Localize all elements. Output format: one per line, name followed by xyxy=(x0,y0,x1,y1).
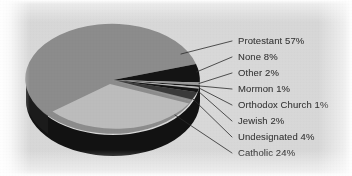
pie-chart-graphic xyxy=(0,0,352,176)
leader-line-catholic xyxy=(175,115,232,153)
leader-line-none xyxy=(197,57,233,72)
leader-line-mormon xyxy=(200,86,233,89)
pie-label-protestant: Protestant 57% xyxy=(238,36,304,46)
pie-label-catholic: Catholic 24% xyxy=(238,148,295,158)
pie-label-orthodox-church: Orthodox Church 1% xyxy=(238,100,329,110)
pie-top-face-group xyxy=(25,24,200,134)
pie-label-undesignated: Undesignated 4% xyxy=(238,132,315,142)
leader-line-other xyxy=(199,73,232,84)
pie-chart-figure: Protestant 57% None 8% Other 2% Mormon 1… xyxy=(0,0,352,176)
pie-label-mormon: Mormon 1% xyxy=(238,84,290,94)
leader-line-jewish xyxy=(198,91,232,121)
pie-label-none: None 8% xyxy=(238,52,278,62)
pie-label-jewish: Jewish 2% xyxy=(238,116,284,126)
leader-line-protestant xyxy=(181,41,232,54)
pie-label-other: Other 2% xyxy=(238,68,279,78)
